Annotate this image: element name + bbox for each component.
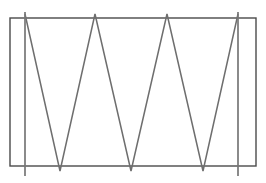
figure-container bbox=[0, 0, 266, 183]
diagram-background bbox=[0, 0, 266, 183]
truss-diagram-svg bbox=[0, 0, 266, 183]
